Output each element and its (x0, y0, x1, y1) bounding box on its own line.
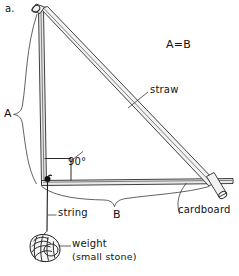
side-a-label: A (4, 108, 12, 120)
string-line (47, 181, 48, 232)
straw-label: straw (150, 85, 179, 96)
right-angle-label: 90° (68, 157, 86, 168)
panel-label: a. (5, 4, 15, 15)
straw-tube (41, 7, 217, 187)
weight-sublabel: (small stone) (72, 252, 137, 262)
clinometer-diagram: a. A=B straw cardboard string weight (sm… (0, 0, 239, 276)
relation-label: A=B (166, 39, 191, 51)
cardboard-label: cardboard (178, 205, 231, 216)
brace-a (14, 14, 38, 184)
side-b-label: B (113, 209, 121, 221)
cardboard-vertical-edge (39, 10, 47, 184)
string-label: string (58, 208, 88, 219)
straw-bottom-end (207, 173, 228, 200)
diagram-canvas (0, 0, 239, 276)
weight-label: weight (72, 239, 107, 250)
stone-icon (30, 232, 60, 262)
